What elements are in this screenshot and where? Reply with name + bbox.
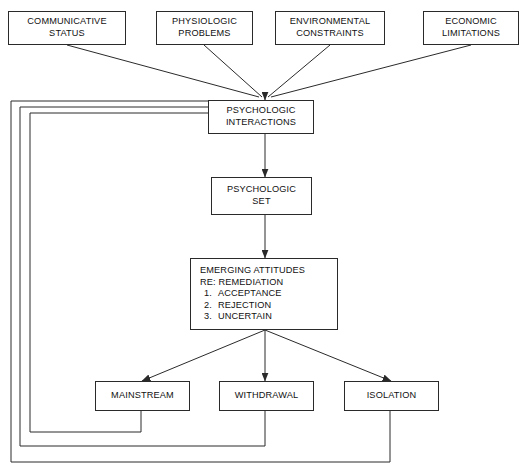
- edge-emerging-attitudes-to-mainstream: [142, 330, 265, 381]
- node-environmental-constraints[interactable]: ENVIRONMENTAL CONSTRAINTS: [275, 11, 385, 45]
- psychologic-set-line-1: PSYCHOLOGIC: [227, 184, 296, 196]
- environmental-constraints-line-2: CONSTRAINTS: [296, 28, 364, 40]
- mainstream-label: MAINSTREAM: [111, 390, 174, 402]
- communicative-status-line-1: COMMUNICATIVE: [27, 16, 106, 28]
- edge-communicative-status-to-psychologic-interactions: [67, 45, 259, 97]
- emerging-attitudes-item-1: 1.ACCEPTANCE: [200, 288, 282, 300]
- node-economic-limitations[interactable]: ECONOMIC LIMITATIONS: [423, 11, 519, 45]
- environmental-constraints-line-1: ENVIRONMENTAL: [290, 16, 370, 28]
- emerging-attitudes-item-2: 2.REJECTION: [200, 300, 271, 312]
- economic-limitations-line-2: LIMITATIONS: [442, 28, 500, 40]
- emerging-attitudes-item-2-text: REJECTION: [218, 300, 271, 310]
- edge-environmental-constraints-to-psychologic-interactions: [268, 45, 330, 97]
- node-psychologic-set[interactable]: PSYCHOLOGIC SET: [211, 177, 312, 215]
- economic-limitations-line-1: ECONOMIC: [445, 16, 497, 28]
- node-communicative-status[interactable]: COMMUNICATIVE STATUS: [8, 11, 126, 45]
- psychologic-set-line-2: SET: [252, 196, 270, 208]
- node-mainstream[interactable]: MAINSTREAM: [95, 381, 190, 411]
- psychologic-interactions-line-2: INTERACTIONS: [226, 117, 296, 129]
- node-isolation[interactable]: ISOLATION: [344, 381, 439, 411]
- edge-economic-limitations-to-psychologic-interactions: [271, 45, 471, 97]
- communicative-status-line-2: STATUS: [49, 28, 85, 40]
- edge-emerging-attitudes-to-isolation: [265, 330, 391, 381]
- emerging-attitudes-line-1: EMERGING ATTITUDES: [200, 265, 305, 277]
- emerging-attitudes-item-3-text: UNCERTAIN: [218, 311, 272, 321]
- emerging-attitudes-item-3-number: 3.: [204, 311, 212, 321]
- edge-physiologic-problems-to-psychologic-interactions: [204, 45, 262, 97]
- emerging-attitudes-item-3: 3.UNCERTAIN: [200, 311, 272, 323]
- node-withdrawal[interactable]: WITHDRAWAL: [219, 381, 314, 411]
- psychologic-interactions-line-1: PSYCHOLOGIC: [226, 105, 295, 117]
- flowchart-canvas: COMMUNICATIVE STATUS PHYSIOLOGIC PROBLEM…: [0, 0, 527, 470]
- physiologic-problems-line-1: PHYSIOLOGIC: [172, 16, 237, 28]
- node-psychologic-interactions[interactable]: PSYCHOLOGIC INTERACTIONS: [208, 100, 314, 134]
- emerging-attitudes-line-2: RE: REMEDIATION: [200, 277, 283, 289]
- withdrawal-label: WITHDRAWAL: [235, 390, 299, 402]
- emerging-attitudes-item-2-number: 2.: [204, 300, 212, 310]
- emerging-attitudes-item-1-number: 1.: [204, 288, 212, 298]
- isolation-label: ISOLATION: [367, 390, 417, 402]
- node-physiologic-problems[interactable]: PHYSIOLOGIC PROBLEMS: [156, 11, 253, 45]
- physiologic-problems-line-2: PROBLEMS: [178, 28, 230, 40]
- node-emerging-attitudes[interactable]: EMERGING ATTITUDES RE: REMEDIATION 1.ACC…: [190, 258, 338, 330]
- emerging-attitudes-item-1-text: ACCEPTANCE: [218, 288, 282, 298]
